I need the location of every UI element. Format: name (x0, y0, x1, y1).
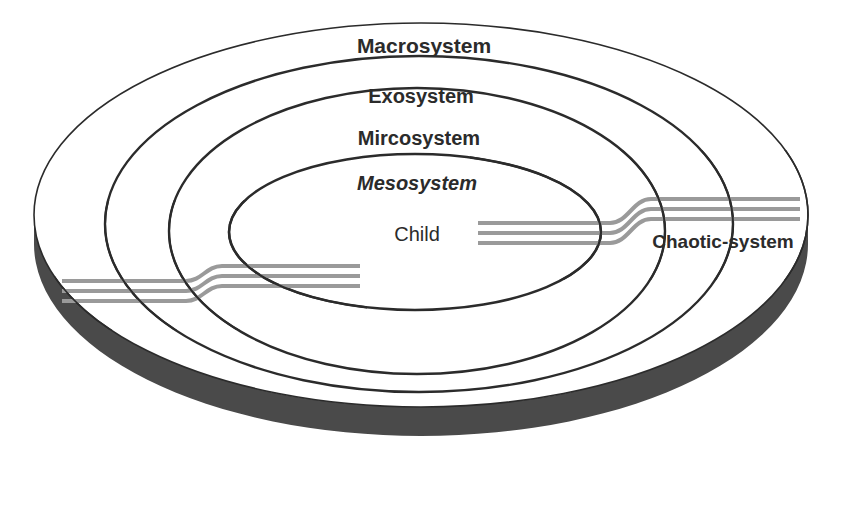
label-chronosystem: Chronosystem (350, 461, 497, 484)
label-child: Child (394, 223, 440, 245)
label-chaotic-system: Chaotic-system (652, 231, 794, 252)
diagram-canvas: Macrosystem Exosystem Mircosystem Mesosy… (0, 0, 849, 526)
label-mircosystem: Mircosystem (358, 127, 480, 149)
label-mesosystem: Mesosystem (357, 172, 477, 194)
label-macrosystem: Macrosystem (357, 34, 491, 57)
ecological-systems-diagram: Macrosystem Exosystem Mircosystem Mesosy… (0, 0, 849, 526)
macrosystem-disc-face (34, 23, 808, 407)
label-exosystem: Exosystem (368, 85, 474, 107)
